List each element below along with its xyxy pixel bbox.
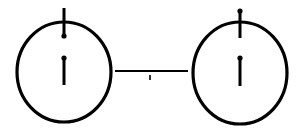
left-node — [17, 8, 111, 122]
stem-dot-icon — [61, 33, 66, 38]
inner-dot-icon — [237, 55, 242, 60]
inner-dot-icon — [61, 55, 66, 60]
right-node — [193, 8, 287, 124]
diagram-canvas — [0, 0, 303, 131]
stem-dot-icon — [237, 8, 242, 13]
connector — [115, 71, 188, 80]
